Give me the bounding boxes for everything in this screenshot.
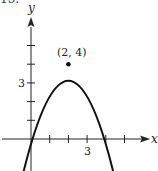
y-axis-label: y bbox=[27, 1, 35, 15]
x-tick-label-3: 3 bbox=[84, 145, 91, 158]
vertex-label: (2, 4) bbox=[57, 46, 87, 59]
y-axis-arrow-icon bbox=[28, 17, 35, 27]
vertex-point bbox=[66, 62, 71, 67]
parabola-curve bbox=[24, 81, 114, 171]
y-tick-label-3: 3 bbox=[18, 77, 25, 90]
x-axis-label: x bbox=[151, 132, 158, 146]
parabola-graph: x y 3 3 (2, 4) bbox=[0, 0, 158, 171]
